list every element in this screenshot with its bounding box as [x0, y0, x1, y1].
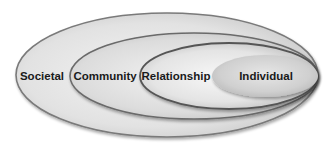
label-individual: Individual — [239, 71, 293, 83]
label-societal: Societal — [20, 71, 64, 83]
label-relationship: Relationship — [141, 71, 210, 83]
label-community: Community — [73, 71, 136, 83]
